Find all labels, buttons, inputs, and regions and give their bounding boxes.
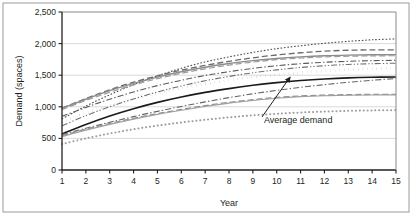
- x-tick-label-12: 12: [320, 176, 330, 186]
- x-tick-label-10: 10: [272, 176, 282, 186]
- y-tick-label-1000: 1,000: [35, 102, 57, 112]
- x-tick-label-14: 14: [367, 176, 377, 186]
- y-tick-label-1500: 1,500: [35, 70, 57, 80]
- y-tick-label-2000: 2,000: [35, 39, 57, 49]
- x-tick-label-5: 5: [155, 176, 160, 186]
- x-tick-label-8: 8: [227, 176, 232, 186]
- x-tick-label-2: 2: [83, 176, 88, 186]
- x-tick-label-6: 6: [179, 176, 184, 186]
- demand-line-chart: 05001,0001,5002,0002,5001234567891011121…: [0, 0, 412, 215]
- x-axis-title: Year: [220, 198, 238, 208]
- annotation-label: Average demand: [264, 115, 332, 125]
- y-tick-label-500: 500: [42, 133, 56, 143]
- x-tick-label-3: 3: [107, 176, 112, 186]
- chart-figure: 05001,0001,5002,0002,5001234567891011121…: [0, 0, 412, 215]
- x-tick-label-7: 7: [203, 176, 208, 186]
- x-tick-label-15: 15: [391, 176, 401, 186]
- x-tick-label-13: 13: [344, 176, 354, 186]
- x-tick-label-11: 11: [296, 176, 305, 186]
- x-tick-label-4: 4: [131, 176, 136, 186]
- y-axis-title: Demand (spaces): [14, 55, 24, 126]
- y-tick-label-0: 0: [51, 165, 56, 175]
- x-tick-label-9: 9: [250, 176, 255, 186]
- x-tick-label-1: 1: [60, 176, 65, 186]
- y-tick-label-2500: 2,500: [35, 7, 57, 17]
